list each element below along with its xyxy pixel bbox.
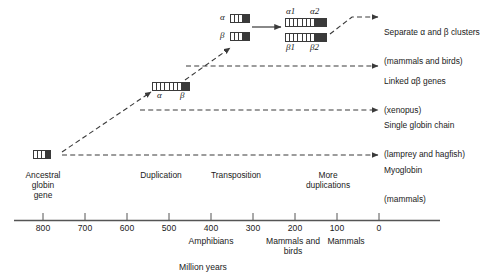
- gene-label-alpha2: α2: [310, 6, 319, 16]
- gene-label-alpha-duplication: α: [157, 90, 162, 100]
- axis-tick-label-800: 800: [25, 223, 61, 233]
- gene-label-beta-transposed: β: [220, 30, 224, 40]
- outcome-myoglobin-line1: Myoglobin: [384, 166, 426, 176]
- gene-label-alpha1: α1: [286, 6, 295, 16]
- outcome-myoglobin: Myoglobin (mammals): [384, 146, 426, 224]
- outcome-single-globin-chain-line1: Single globin chain: [384, 121, 465, 131]
- gene-block-beta-cluster: [285, 33, 327, 42]
- gene-block-alpha-transposed: [230, 14, 250, 23]
- outcome-linked-genes-line1: Linked αβ genes: [384, 77, 446, 87]
- path-to-separate-clusters: [330, 17, 378, 34]
- gene-label-beta-duplication: β: [180, 90, 184, 100]
- axis-tick-label-200: 200: [277, 223, 313, 233]
- gene-label-beta1: β1: [286, 42, 295, 52]
- axis-tick-label-500: 500: [151, 223, 187, 233]
- time-axis-ticks: [43, 213, 379, 220]
- gene-label-beta2: β2: [310, 42, 319, 52]
- path-ancestral-to-duplication: [62, 92, 151, 152]
- path-duplication-to-transposition: [185, 48, 230, 80]
- outcome-separate-clusters-line1: Separate α and β clusters: [384, 28, 480, 38]
- outcome-myoglobin-line2: (mammals): [384, 195, 426, 205]
- stage-label-more-duplications: More duplications: [288, 171, 368, 191]
- axis-tick-label-0: 0: [361, 223, 397, 233]
- axis-tick-label-400: 400: [193, 223, 229, 233]
- gene-block-ancestral: [33, 150, 51, 159]
- globin-evolution-diagram: α β α β α1 α2 β1 β2 Separate α and β clu…: [0, 0, 487, 277]
- gene-block-alpha-cluster: [285, 18, 327, 27]
- era-label-amphibians: Amphibians: [180, 236, 242, 246]
- stage-label-transposition: Transposition: [198, 171, 274, 181]
- axis-tick-label-300: 300: [235, 223, 271, 233]
- stage-label-ancestral-globin-gene: Ancestral globin gene: [12, 171, 74, 200]
- gene-label-alpha-transposed: α: [220, 12, 225, 22]
- gene-block-beta-transposed: [230, 32, 250, 41]
- axis-title-million-years: Million years: [160, 262, 246, 272]
- axis-tick-label-100: 100: [319, 223, 355, 233]
- era-label-mammals: Mammals: [316, 236, 376, 246]
- axis-tick-label-600: 600: [109, 223, 145, 233]
- stage-label-duplication: Duplication: [125, 171, 197, 181]
- axis-tick-label-700: 700: [67, 223, 103, 233]
